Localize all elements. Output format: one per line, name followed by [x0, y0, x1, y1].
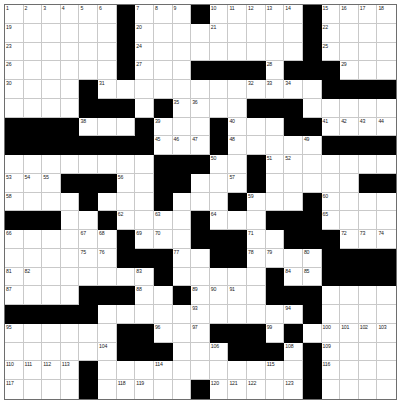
letter-cell[interactable]: 123: [284, 380, 303, 399]
letter-cell[interactable]: [42, 24, 61, 43]
letter-cell[interactable]: 66: [5, 230, 24, 249]
letter-cell[interactable]: [61, 80, 80, 99]
letter-cell[interactable]: [247, 24, 266, 43]
letter-cell[interactable]: [340, 24, 359, 43]
letter-cell[interactable]: [154, 43, 173, 62]
letter-cell[interactable]: 120: [210, 380, 229, 399]
letter-cell[interactable]: [340, 305, 359, 324]
letter-cell[interactable]: [359, 43, 378, 62]
letter-cell[interactable]: [24, 343, 43, 362]
letter-cell[interactable]: 73: [359, 230, 378, 249]
letter-cell[interactable]: 38: [79, 118, 98, 137]
letter-cell[interactable]: [98, 24, 117, 43]
letter-cell[interactable]: [61, 155, 80, 174]
letter-cell[interactable]: [359, 286, 378, 305]
letter-cell[interactable]: [98, 43, 117, 62]
letter-cell[interactable]: 90: [210, 286, 229, 305]
letter-cell[interactable]: 76: [98, 249, 117, 268]
letter-cell[interactable]: [210, 80, 229, 99]
letter-cell[interactable]: [322, 99, 341, 118]
letter-cell[interactable]: [247, 211, 266, 230]
letter-cell[interactable]: [340, 380, 359, 399]
letter-cell[interactable]: 36: [191, 99, 210, 118]
letter-cell[interactable]: [247, 361, 266, 380]
letter-cell[interactable]: [191, 80, 210, 99]
letter-cell[interactable]: 41: [322, 118, 341, 137]
letter-cell[interactable]: 23: [5, 43, 24, 62]
letter-cell[interactable]: [359, 99, 378, 118]
letter-cell[interactable]: [173, 193, 192, 212]
letter-cell[interactable]: [359, 61, 378, 80]
letter-cell[interactable]: 104: [98, 343, 117, 362]
letter-cell[interactable]: [24, 24, 43, 43]
letter-cell[interactable]: [79, 43, 98, 62]
letter-cell[interactable]: [210, 361, 229, 380]
letter-cell[interactable]: [359, 361, 378, 380]
letter-cell[interactable]: [135, 305, 154, 324]
letter-cell[interactable]: [340, 43, 359, 62]
letter-cell[interactable]: [98, 193, 117, 212]
letter-cell[interactable]: [340, 99, 359, 118]
letter-cell[interactable]: [228, 43, 247, 62]
letter-cell[interactable]: 121: [228, 380, 247, 399]
letter-cell[interactable]: [303, 324, 322, 343]
letter-cell[interactable]: 8: [154, 5, 173, 24]
letter-cell[interactable]: 19: [5, 24, 24, 43]
letter-cell[interactable]: [61, 99, 80, 118]
letter-cell[interactable]: [266, 43, 285, 62]
letter-cell[interactable]: [24, 80, 43, 99]
letter-cell[interactable]: 96: [154, 324, 173, 343]
letter-cell[interactable]: 63: [154, 211, 173, 230]
letter-cell[interactable]: [247, 136, 266, 155]
letter-cell[interactable]: [42, 324, 61, 343]
letter-cell[interactable]: [61, 211, 80, 230]
letter-cell[interactable]: 2: [24, 5, 43, 24]
letter-cell[interactable]: [228, 305, 247, 324]
letter-cell[interactable]: 48: [228, 136, 247, 155]
letter-cell[interactable]: [377, 343, 396, 362]
letter-cell[interactable]: [173, 343, 192, 362]
letter-cell[interactable]: [359, 305, 378, 324]
letter-cell[interactable]: [284, 136, 303, 155]
letter-cell[interactable]: 57: [228, 174, 247, 193]
letter-cell[interactable]: 29: [340, 61, 359, 80]
letter-cell[interactable]: 75: [79, 249, 98, 268]
letter-cell[interactable]: [5, 155, 24, 174]
letter-cell[interactable]: [24, 43, 43, 62]
letter-cell[interactable]: 40: [228, 118, 247, 137]
letter-cell[interactable]: [42, 286, 61, 305]
letter-cell[interactable]: 10: [210, 5, 229, 24]
letter-cell[interactable]: [42, 43, 61, 62]
letter-cell[interactable]: 112: [42, 361, 61, 380]
letter-cell[interactable]: 99: [266, 324, 285, 343]
letter-cell[interactable]: [228, 99, 247, 118]
letter-cell[interactable]: [359, 380, 378, 399]
letter-cell[interactable]: 39: [154, 118, 173, 137]
letter-cell[interactable]: [61, 286, 80, 305]
letter-cell[interactable]: [377, 305, 396, 324]
letter-cell[interactable]: 77: [173, 249, 192, 268]
letter-cell[interactable]: [210, 99, 229, 118]
letter-cell[interactable]: [340, 361, 359, 380]
letter-cell[interactable]: [228, 80, 247, 99]
letter-cell[interactable]: 43: [359, 118, 378, 137]
letter-cell[interactable]: 60: [322, 193, 341, 212]
letter-cell[interactable]: 122: [247, 380, 266, 399]
letter-cell[interactable]: 17: [359, 5, 378, 24]
letter-cell[interactable]: [228, 361, 247, 380]
letter-cell[interactable]: [117, 118, 136, 137]
letter-cell[interactable]: 35: [173, 99, 192, 118]
letter-cell[interactable]: 89: [191, 286, 210, 305]
letter-cell[interactable]: 82: [24, 268, 43, 287]
letter-cell[interactable]: 101: [340, 324, 359, 343]
letter-cell[interactable]: 27: [135, 61, 154, 80]
letter-cell[interactable]: [154, 24, 173, 43]
letter-cell[interactable]: [322, 305, 341, 324]
letter-cell[interactable]: 108: [284, 343, 303, 362]
letter-cell[interactable]: 87: [5, 286, 24, 305]
letter-cell[interactable]: [340, 155, 359, 174]
letter-cell[interactable]: [42, 380, 61, 399]
letter-cell[interactable]: [340, 193, 359, 212]
letter-cell[interactable]: [191, 24, 210, 43]
letter-cell[interactable]: [210, 174, 229, 193]
